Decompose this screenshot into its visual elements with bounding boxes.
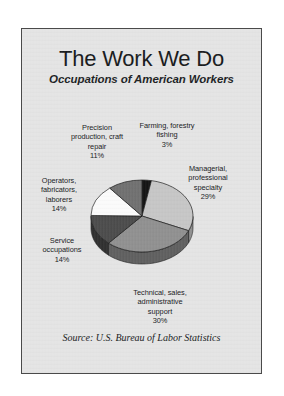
slice-label-farming-pct: 3%: [134, 140, 200, 150]
slice-label-service-pct: 14%: [30, 255, 94, 265]
source-note: Source: U.S. Bureau of Labor Statistics: [22, 332, 261, 343]
slice-label-service: Service occupations 14%: [30, 226, 94, 274]
slice-label-precision-text: Precision production, craft repair: [71, 123, 123, 151]
slice-label-operators: Operators, fabricators, laborers 14%: [28, 166, 90, 224]
slice-label-farming-text: Farming, forestry fishing: [139, 121, 194, 140]
chart-subtitle: Occupations of American Workers: [22, 73, 261, 85]
slice-label-technical-pct: 30%: [116, 316, 204, 326]
slice-label-service-text: Service occupations: [43, 236, 82, 255]
slice-label-technical-text: Technical, sales, administrative support: [133, 288, 186, 316]
slice-label-precision: Precision production, craft repair 11%: [60, 113, 134, 171]
slice-label-managerial-text: Managerial, professional specialty: [188, 164, 227, 192]
slice-label-precision-pct: 11%: [60, 151, 134, 161]
chart-stage: The Work We Do Occupations of American W…: [22, 29, 261, 373]
chart-title: The Work We Do: [22, 46, 261, 72]
slice-label-operators-pct: 14%: [28, 204, 90, 214]
chart-panel: The Work We Do Occupations of American W…: [21, 28, 262, 374]
slice-label-technical: Technical, sales, administrative support…: [116, 278, 204, 336]
slice-label-farming: Farming, forestry fishing 3%: [134, 111, 200, 159]
slice-label-managerial: Managerial, professional specialty 29%: [177, 154, 239, 212]
slice-label-operators-text: Operators, fabricators, laborers: [41, 176, 77, 204]
slice-label-managerial-pct: 29%: [177, 192, 239, 202]
